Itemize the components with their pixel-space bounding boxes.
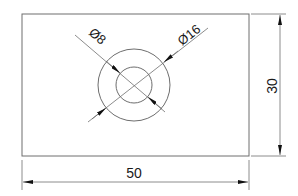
height-dimension: 30 [251, 14, 286, 156]
inner-diameter-dimension: Ø8 [75, 25, 165, 112]
width-label: 50 [126, 165, 142, 181]
outer-diameter-label: Ø16 [175, 21, 204, 48]
inner-diameter-label: Ø8 [86, 25, 109, 48]
height-label: 30 [264, 78, 280, 94]
technical-drawing: Ø8 Ø16 30 50 [0, 0, 298, 196]
width-dimension: 50 [22, 160, 249, 190]
